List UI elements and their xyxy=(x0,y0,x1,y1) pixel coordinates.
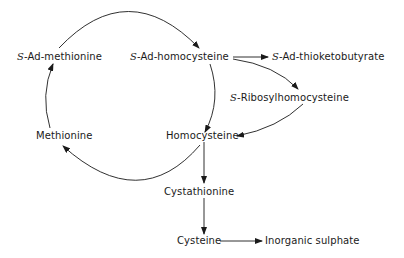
arrow-met-to-sam xyxy=(46,64,53,128)
arrow-sah-to-srh xyxy=(233,59,298,89)
node-s-ad-methionine: S-Ad-methionine xyxy=(17,51,102,63)
node-s-ad-homocysteine: S-Ad-homocysteine xyxy=(130,51,229,63)
node-inorganic-sulphate: Inorganic sulphate xyxy=(265,235,360,247)
node-s-ad-thioketobutyrate: S-Ad-thioketobutyrate xyxy=(272,51,385,63)
node-label: Inorganic sulphate xyxy=(265,235,360,246)
s-prefix: S xyxy=(130,51,137,62)
node-homocysteine: Homocysteine xyxy=(166,130,239,142)
node-label: -Ad-homocysteine xyxy=(137,51,229,62)
node-label: -Ad-thioketobutyrate xyxy=(279,51,385,62)
node-label: Cystathionine xyxy=(164,186,234,197)
arrow-sam-to-sah xyxy=(59,12,199,49)
node-cysteine: Cysteine xyxy=(177,235,221,247)
arrow-sah-to-hcy xyxy=(205,64,215,132)
node-methionine: Methionine xyxy=(36,130,93,142)
pathway-arrows xyxy=(0,0,404,258)
s-prefix: S xyxy=(230,92,237,103)
node-label: -Ribosylhomocysteine xyxy=(237,92,349,103)
node-label: Methionine xyxy=(36,130,93,141)
s-prefix: S xyxy=(272,51,279,62)
node-label: Homocysteine xyxy=(166,130,239,141)
s-prefix: S xyxy=(17,51,24,62)
node-label: Cysteine xyxy=(177,235,221,246)
node-label: -Ad-methionine xyxy=(24,51,102,62)
node-s-ribosylhomocysteine: S-Ribosylhomocysteine xyxy=(230,92,349,104)
arrow-srh-to-hcy xyxy=(237,104,303,136)
arrow-hcy-to-met xyxy=(63,145,200,180)
node-cystathionine: Cystathionine xyxy=(164,186,234,198)
